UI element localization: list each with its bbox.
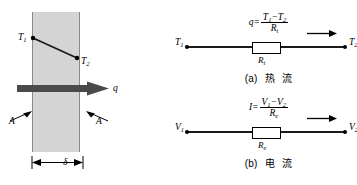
terminal-node-right (343, 130, 347, 134)
thickness-dimension-line (26, 156, 88, 170)
slab-area-label-left: A (9, 117, 15, 127)
circuit-terminal-label-right: V2 (349, 123, 357, 133)
circuit-terminal-label-right: T2 (349, 38, 357, 48)
thermal-electrical-analogy-figure: T1 T2 q A A δ q=T1−T2Rt T1 T2 Rt (a)热流 I… (0, 0, 357, 185)
electrical-resistor-symbol (252, 127, 281, 139)
caption-electric-current: (b)电流 (180, 155, 357, 170)
current-flow-direction-arrow (306, 113, 340, 124)
terminal-node-left (185, 45, 189, 49)
circuit-terminal-label-left: T1 (175, 38, 184, 48)
thermal-flow-direction-arrow (306, 28, 340, 39)
circuit-wire-right (278, 131, 345, 133)
heat-flux-arrow (17, 81, 117, 97)
slab-area-label-right: A (96, 117, 102, 127)
circuit-wire-left (187, 131, 253, 133)
slab-heat-flux-label: q (113, 84, 118, 94)
circuit-terminal-label-left: V1 (175, 123, 184, 133)
electrical-resistance-label: Re (258, 141, 266, 150)
caption-thermal-flow: (a)热流 (180, 70, 357, 85)
slab-cold-temperature-label: T2 (81, 57, 90, 67)
thermal-resistance-circuit: q=T1−T2Rt T1 T2 Rt (a)热流 (180, 8, 357, 93)
electrical-resistance-circuit: I=V1−V2Re V1 V2 Re (b)电流 (180, 93, 357, 178)
slab-hot-temperature-label: T1 (18, 33, 27, 43)
thermal-resistance-label: Rt (258, 56, 265, 65)
circuit-wire-right (278, 46, 345, 48)
circuit-wire-left (187, 46, 253, 48)
thermal-resistor-symbol (252, 42, 281, 54)
slab-thickness-label: δ (63, 158, 67, 168)
terminal-node-right (343, 45, 347, 49)
terminal-node-left (185, 130, 189, 134)
